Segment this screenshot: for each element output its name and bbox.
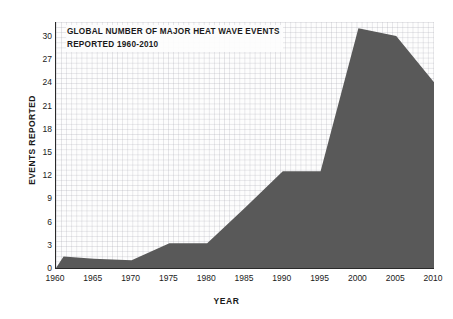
chart-title: GLOBAL NUMBER OF MAJOR HEAT WAVE EVENTS …	[66, 25, 283, 52]
x-tick-1980: 1980	[186, 273, 226, 283]
x-tick-1990: 1990	[262, 273, 302, 283]
x-axis-title: YEAR	[0, 296, 453, 306]
y-tick-3: 3	[6, 240, 52, 250]
x-tick-2005: 2005	[375, 273, 415, 283]
y-tick-27: 27	[6, 54, 52, 64]
chart-figure: EVENTS REPORTED 036912151821242730 GLOBA…	[0, 0, 453, 319]
y-axis-tick-labels: 036912151821242730	[0, 22, 52, 268]
area-polygon	[56, 28, 434, 268]
x-tick-1970: 1970	[111, 273, 151, 283]
chart-title-line-1: GLOBAL NUMBER OF MAJOR HEAT WAVE EVENTS	[67, 26, 280, 39]
area-series	[56, 22, 434, 268]
y-tick-15: 15	[6, 147, 52, 157]
y-tick-30: 30	[6, 31, 52, 41]
y-tick-0: 0	[6, 263, 52, 273]
x-tick-1965: 1965	[73, 273, 113, 283]
chart-title-line-2: REPORTED 1960-2010	[67, 39, 280, 52]
y-tick-12: 12	[6, 170, 52, 180]
x-tick-2000: 2000	[337, 273, 377, 283]
y-tick-21: 21	[6, 101, 52, 111]
y-tick-18: 18	[6, 124, 52, 134]
x-tick-1985: 1985	[224, 273, 264, 283]
x-axis-tick-labels: 1960196519701975198019851990199520002005…	[55, 273, 433, 287]
x-tick-1960: 1960	[35, 273, 75, 283]
y-tick-6: 6	[6, 217, 52, 227]
plot-area	[55, 22, 434, 269]
y-tick-9: 9	[6, 193, 52, 203]
x-tick-2010: 2010	[413, 273, 453, 283]
y-tick-24: 24	[6, 77, 52, 87]
x-tick-1995: 1995	[300, 273, 340, 283]
x-tick-1975: 1975	[148, 273, 188, 283]
